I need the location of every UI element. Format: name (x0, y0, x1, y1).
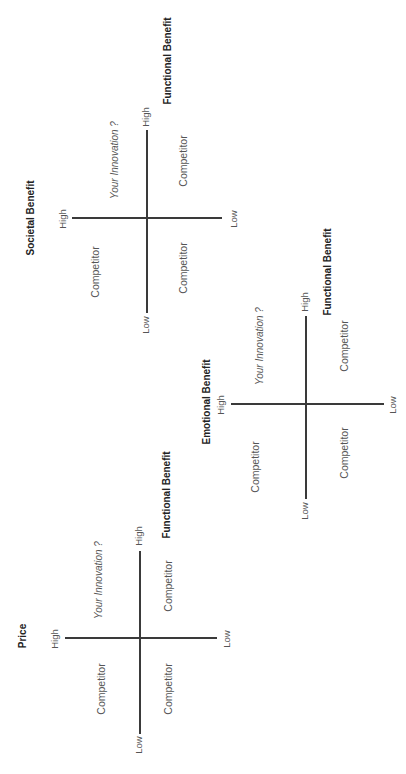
quadrant-competitor: Competitor (250, 441, 261, 492)
y-low-label: Low (222, 630, 232, 647)
y-low-label: Low (388, 396, 398, 413)
quadrant-competitor: Competitor (178, 242, 189, 293)
functional-axis-line (139, 551, 141, 734)
functional-axis-line (305, 316, 307, 499)
emotional-axis-line (231, 403, 384, 405)
quadrant-competitor: Competitor (90, 246, 101, 297)
functional-axis-line (146, 130, 148, 313)
quadrant-competitor: Competitor (178, 135, 189, 186)
quadrant-your-innovation: Your Innovation ? (255, 307, 265, 385)
quadrant-competitor: Competitor (339, 427, 350, 478)
y-low-label: Low (229, 210, 239, 227)
y-high-label: High (58, 209, 68, 229)
y-axis-title: Price (18, 624, 28, 648)
quadrant-your-innovation: Your Innovation ? (94, 541, 104, 619)
x-low-label: Low (141, 316, 151, 333)
x-high-label: High (134, 526, 144, 546)
quadrant-competitor: Competitor (339, 320, 350, 371)
x-high-label: High (141, 107, 151, 127)
x-axis-title: Functional Benefit (163, 17, 173, 104)
x-low-label: Low (134, 736, 144, 753)
quadrant-competitor: Competitor (163, 560, 174, 611)
x-axis-title: Functional Benefit (323, 228, 333, 315)
y-high-label: High (216, 395, 226, 415)
y-high-label: High (50, 629, 60, 649)
price-axis-line (65, 637, 217, 639)
quadrant-competitor: Competitor (163, 663, 174, 714)
y-axis-title: Emotional Benefit (202, 359, 212, 444)
y-axis-title: Societal Benefit (26, 180, 36, 255)
quadrant-competitor: Competitor (96, 663, 107, 714)
x-high-label: High (300, 292, 310, 312)
x-axis-title: Functional Benefit (162, 451, 172, 538)
quadrant-your-innovation: Your Innovation ? (110, 121, 120, 199)
x-low-label: Low (300, 502, 310, 519)
positioning-maps: Societal Benefit Functional Benefit High… (0, 0, 406, 774)
societal-axis-line (72, 217, 222, 219)
